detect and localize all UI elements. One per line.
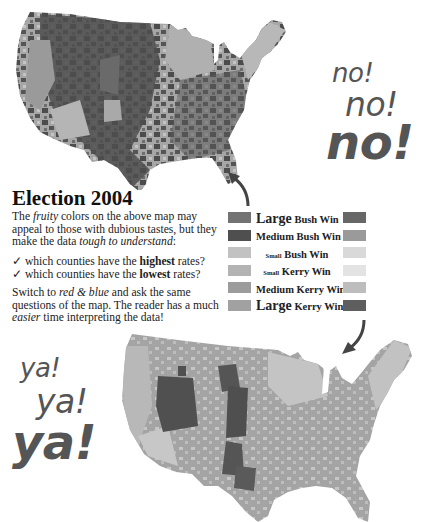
legend-row-small-kerry: Small Kerry Win xyxy=(228,262,366,280)
switch-text-3: time interpreting the data! xyxy=(40,311,164,324)
ya-text-large: ya! xyxy=(12,418,96,466)
legend-swatch-redblue xyxy=(343,212,366,223)
legend-swatch-redblue xyxy=(343,282,366,293)
legend-label: Small Bush Win xyxy=(256,244,338,262)
question-bold: highest xyxy=(140,255,175,268)
question-text: which counties have the xyxy=(25,255,140,268)
intro-paragraph: The fruity colors on the above map may a… xyxy=(12,211,227,249)
fruity-emphasis: fruity xyxy=(33,210,58,223)
legend-swatch-fruity xyxy=(228,230,251,241)
legend-label: Medium Kerry Win xyxy=(256,279,338,297)
no-text-small: no! xyxy=(332,60,373,86)
legend-label: Large Bush Win xyxy=(256,209,338,227)
no-text-large: no! xyxy=(326,118,414,166)
legend-label: Medium Bush Win xyxy=(256,226,338,244)
legend-row-medium-kerry: Medium Kerry Win xyxy=(228,279,366,297)
legend-row-medium-bush: Medium Bush Win xyxy=(228,227,366,245)
intro-text-3: : xyxy=(173,235,176,248)
check-icon: ✓ xyxy=(12,255,22,268)
easier-emphasis: easier xyxy=(12,311,40,324)
legend-row-large-bush: Large Bush Win xyxy=(228,209,366,227)
legend-swatch-redblue xyxy=(343,300,366,311)
question-text-end: rates? xyxy=(170,268,200,281)
intro-text: The xyxy=(12,210,33,223)
legend-row-large-kerry: Large Kerry Win xyxy=(228,297,366,315)
top-map-fruity-colors xyxy=(0,0,300,190)
bottom-map-red-blue xyxy=(118,326,436,522)
legend-swatch-fruity xyxy=(228,247,251,258)
tough-emphasis: tough to understand xyxy=(79,235,172,248)
legend-swatch-redblue xyxy=(343,247,366,258)
legend-label: Large Kerry Win xyxy=(256,296,338,314)
check-icon: ✓ xyxy=(12,268,22,281)
arrow-up-icon xyxy=(226,168,256,208)
legend-swatch-fruity xyxy=(228,282,251,293)
legend-label: Small Kerry Win xyxy=(256,261,338,279)
questions-list: ✓ which counties have the highest rates?… xyxy=(12,256,232,281)
page-title: Election 2004 xyxy=(12,186,133,211)
question-item: ✓ which counties have the lowest rates? xyxy=(12,269,232,282)
question-text: which counties have the xyxy=(25,268,140,281)
legend-swatch-redblue xyxy=(343,265,366,276)
legend: Large Bush Win Medium Bush Win Small Bus… xyxy=(228,209,366,314)
question-text-end: rates? xyxy=(175,255,205,268)
legend-swatch-fruity xyxy=(228,265,251,276)
legend-swatch-fruity xyxy=(228,212,251,223)
switch-paragraph: Switch to red & blue and ask the same qu… xyxy=(12,287,227,325)
question-bold: lowest xyxy=(140,268,171,281)
legend-swatch-redblue xyxy=(343,230,366,241)
switch-text: Switch to xyxy=(12,286,59,299)
red-blue-emphasis: red & blue xyxy=(59,286,109,299)
legend-swatch-fruity xyxy=(228,300,251,311)
ya-text-small: ya! xyxy=(20,355,60,381)
legend-row-small-bush: Small Bush Win xyxy=(228,244,366,262)
